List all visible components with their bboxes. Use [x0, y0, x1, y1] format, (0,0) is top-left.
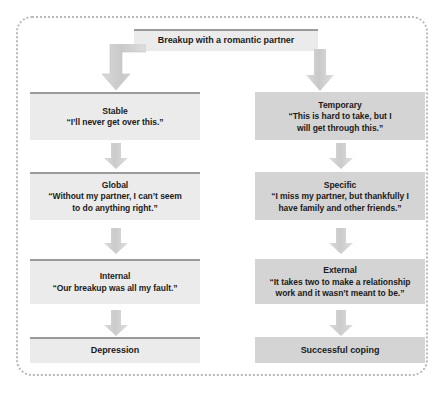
arrow-temporary-to-specific	[328, 143, 354, 170]
node-quote: “I’ll never get over this.”	[67, 117, 164, 128]
node-title: Breakup with a romantic partner	[158, 35, 294, 46]
node-internal[interactable]: Internal “Our breakup was all my fault.”	[30, 259, 200, 304]
node-depression[interactable]: Depression	[30, 337, 200, 363]
node-stable[interactable]: Stable “I’ll never get over this.”	[30, 92, 200, 140]
node-title: Depression	[91, 345, 140, 356]
node-title: Internal	[100, 271, 131, 282]
node-specific[interactable]: Specific “I miss my partner, but thankfu…	[255, 172, 425, 220]
elbow-arrow-to-stable	[100, 44, 146, 92]
node-title: External	[323, 265, 357, 276]
node-breakup-with-a-romantic-partner[interactable]: Breakup with a romantic partner	[134, 29, 318, 51]
node-quote: “This is hard to take, but I will get th…	[255, 111, 425, 134]
arrow-external-to-successful-coping	[328, 310, 354, 337]
node-global[interactable]: Global “Without my partner, I can’t seem…	[30, 172, 200, 220]
arrow-specific-to-external	[328, 228, 354, 255]
node-title: Successful coping	[301, 345, 380, 356]
arrow-internal-to-depression	[103, 310, 129, 337]
arrow-global-to-internal	[103, 228, 129, 255]
node-quote: “Our breakup was all my fault.”	[52, 283, 177, 294]
node-title: Global	[102, 180, 128, 191]
node-external[interactable]: External “It takes two to make a relatio…	[255, 259, 425, 304]
node-title: Stable	[102, 106, 128, 117]
node-title: Temporary	[318, 100, 361, 111]
arrow-stable-to-global	[103, 143, 129, 170]
node-quote: “I miss my partner, but thankfully I hav…	[261, 191, 419, 214]
node-quote: “Without my partner, I can’t seem to do …	[44, 191, 186, 214]
arrow-to-temporary	[305, 49, 335, 92]
node-successful-coping[interactable]: Successful coping	[255, 337, 425, 363]
flowchart-diagram: Breakup with a romantic partner	[0, 0, 445, 393]
node-temporary[interactable]: Temporary “This is hard to take, but I w…	[255, 92, 425, 140]
node-quote: “It takes two to make a relationship wor…	[261, 277, 419, 300]
node-title: Specific	[324, 180, 357, 191]
